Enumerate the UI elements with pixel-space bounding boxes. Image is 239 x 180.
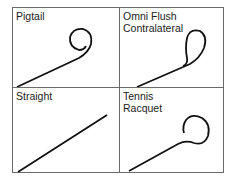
panel-omni-flush: Omni FlushContralateral bbox=[119, 7, 224, 88]
panel-pigtail: Pigtail bbox=[12, 7, 120, 88]
straight-catheter-icon bbox=[13, 88, 121, 174]
tennis-racquet-catheter-icon bbox=[120, 88, 225, 174]
panel-tennis-racquet: TennisRacquet bbox=[119, 87, 224, 173]
panel-straight: Straight bbox=[12, 87, 120, 173]
pigtail-catheter-icon bbox=[13, 8, 121, 89]
omni-flush-catheter-icon bbox=[120, 8, 225, 89]
